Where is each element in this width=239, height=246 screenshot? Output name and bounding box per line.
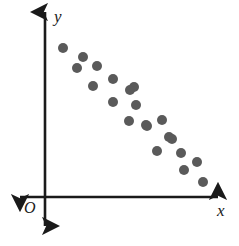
data-point (72, 63, 82, 73)
data-point (176, 148, 186, 158)
origin-label: O (24, 200, 36, 216)
data-point (88, 81, 98, 91)
data-point (152, 146, 162, 156)
data-points-group (58, 43, 208, 187)
x-axis-label: x (217, 202, 225, 219)
scatter-plot-figure: y x O (0, 0, 239, 246)
y-axis-label: y (54, 8, 62, 25)
data-point (108, 74, 118, 84)
data-point (78, 52, 88, 62)
data-point (198, 177, 208, 187)
data-point (167, 134, 177, 144)
data-point (141, 120, 151, 130)
axes-group (20, 12, 218, 226)
data-point (179, 165, 189, 175)
data-point (58, 43, 68, 53)
data-point (125, 85, 135, 95)
data-point (92, 61, 102, 71)
data-point (192, 157, 202, 167)
data-point (108, 97, 118, 107)
data-point (157, 115, 167, 125)
data-point (124, 116, 134, 126)
data-point (131, 100, 141, 110)
